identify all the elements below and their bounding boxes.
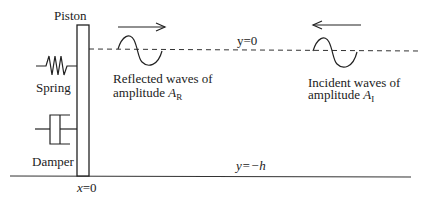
incident-amplitude-label: amplitude AI bbox=[308, 87, 374, 104]
reflected-amplitude-label: amplitude AR bbox=[113, 85, 182, 102]
spring-label: Spring bbox=[36, 80, 71, 95]
incident-direction-arrow-icon bbox=[313, 21, 361, 29]
origin-label: x=0 bbox=[76, 180, 97, 195]
bottom-label: y=−h bbox=[234, 158, 266, 173]
piston bbox=[77, 25, 89, 176]
reflected-direction-arrow-icon bbox=[118, 23, 165, 31]
surface-label: y=0 bbox=[237, 33, 257, 48]
piston-wave-diagram: Piston Spring Damper x=0 Reflected waves… bbox=[0, 0, 421, 197]
incident-wave bbox=[313, 38, 357, 67]
bottom-line bbox=[10, 176, 411, 177]
piston-label: Piston bbox=[54, 8, 87, 23]
reflected-waves-label: Reflected waves of bbox=[113, 71, 213, 86]
damper-icon bbox=[35, 115, 77, 144]
damper-label: Damper bbox=[32, 154, 75, 169]
still-water-line bbox=[89, 49, 420, 51]
spring-icon bbox=[36, 56, 77, 75]
reflected-wave bbox=[118, 36, 162, 65]
